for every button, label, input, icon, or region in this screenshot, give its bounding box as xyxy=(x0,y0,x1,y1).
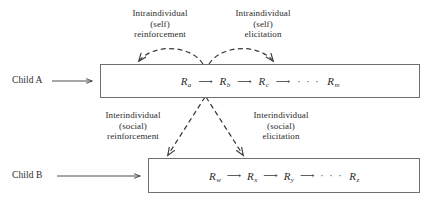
annotation-line-1: Intraindividual xyxy=(105,8,215,19)
chain-arrow: ⟶ xyxy=(237,76,251,87)
response-term-m: Rm xyxy=(327,75,339,87)
self-elicitation-arc xyxy=(209,49,273,64)
annotation-line-2: (social) xyxy=(76,121,190,132)
response-chain-child-a: Ra ⟶ Rb ⟶ Rc ⟶ · · · Rm xyxy=(101,65,419,97)
annotation-line-1: Interindividual xyxy=(76,110,190,121)
annotation-interindividual-reinforcement: Interindividual (social) reinforcement xyxy=(76,110,190,142)
annotation-line-2: (self) xyxy=(208,19,318,30)
response-term-b: Rb xyxy=(220,75,231,87)
chain-arrow: ⟶ xyxy=(276,76,290,87)
annotation-line-2: (self) xyxy=(105,19,215,30)
chain-arrow: ⟶ xyxy=(227,170,241,181)
response-term-x: Rx xyxy=(247,170,257,182)
chain-arrow: ⟶ xyxy=(263,170,277,181)
response-term-w: Rw xyxy=(209,170,221,182)
annotation-line-3: reinforcement xyxy=(105,29,215,40)
response-term-a: Ra xyxy=(181,75,192,87)
annotation-line-2: (social) xyxy=(224,121,338,132)
diagram-canvas: Intraindividual (self) reinforcement Int… xyxy=(0,0,431,200)
annotation-line-1: Intraindividual xyxy=(208,8,318,19)
annotation-line-3: elicitation xyxy=(208,29,318,40)
chain-arrow: ⟶ xyxy=(300,170,314,181)
response-term-c: Rc xyxy=(259,75,269,87)
annotation-line-1: Interindividual xyxy=(224,110,338,121)
annotation-interindividual-elicitation: Interindividual (social) elicitation xyxy=(224,110,338,142)
annotation-line-3: reinforcement xyxy=(76,131,190,142)
annotation-line-3: elicitation xyxy=(224,131,338,142)
response-chain-child-b: Rw ⟶ Rx ⟶ Ry ⟶ · · · Rz xyxy=(149,159,419,192)
chain-arrow: ⟶ xyxy=(198,76,212,87)
response-chain-box-child-b: Rw ⟶ Rx ⟶ Ry ⟶ · · · Rz xyxy=(148,158,420,193)
actor-label-child-a: Child A xyxy=(12,75,43,85)
chain-ellipsis: · · · xyxy=(320,170,343,181)
self-reinforcement-arc xyxy=(139,49,203,64)
response-term-z: Rz xyxy=(349,170,359,182)
annotation-intraindividual-reinforcement: Intraindividual (self) reinforcement xyxy=(105,8,215,40)
response-term-y: Ry xyxy=(284,170,294,182)
annotation-intraindividual-elicitation: Intraindividual (self) elicitation xyxy=(208,8,318,40)
chain-ellipsis: · · · xyxy=(297,76,320,87)
actor-label-child-b: Child B xyxy=(12,170,43,180)
response-chain-box-child-a: Ra ⟶ Rb ⟶ Rc ⟶ · · · Rm xyxy=(100,64,420,98)
